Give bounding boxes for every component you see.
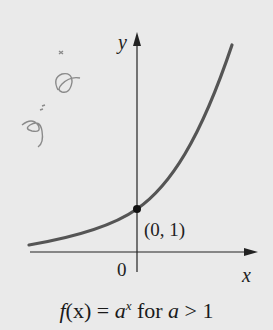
point-label: (0, 1): [144, 219, 185, 241]
y-axis-arrow-icon: [133, 32, 141, 46]
origin-label: 0: [117, 259, 127, 280]
figure-caption: f(x) = ax for a > 1: [0, 298, 273, 324]
point-0-1: [133, 205, 141, 213]
caption-rest: for: [131, 298, 168, 323]
caption-cond-rest: > 1: [179, 298, 213, 323]
y-axis-label: y: [116, 31, 127, 54]
x-axis-label: x: [241, 264, 251, 286]
caption-cond-var: a: [168, 298, 179, 323]
x-axis-arrow-icon: [244, 248, 258, 256]
exponential-graph: y x 0 (0, 1): [0, 0, 273, 330]
handwritten-note: [22, 51, 80, 147]
caption-base: a: [115, 298, 126, 323]
caption-arg: (x) =: [66, 298, 115, 323]
